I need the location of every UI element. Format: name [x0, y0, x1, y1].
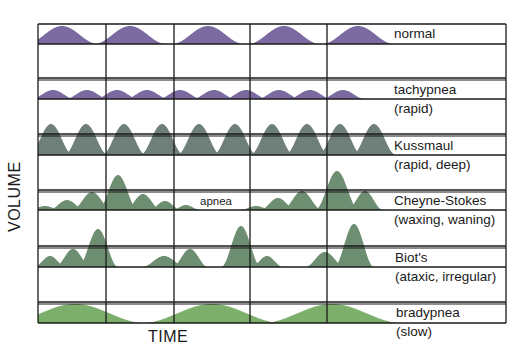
waveform-kussmaul [38, 124, 396, 155]
pattern-name: tachypnea [394, 82, 456, 98]
pattern-description: (slow) [396, 324, 460, 340]
pattern-name: Biot's [395, 250, 496, 266]
pattern-name: bradypnea [396, 305, 460, 321]
y-axis-label: VOLUME [6, 161, 24, 232]
pattern-description: (rapid) [394, 101, 456, 117]
pattern-name: Cheyne-Stokes [394, 193, 495, 209]
label-normal: normal [394, 26, 435, 42]
pattern-name: Kussmaul [394, 138, 471, 154]
label-tachypnea: tachypnea (rapid) [394, 82, 456, 117]
label-cheyne-stokes: Cheyne-Stokes (waxing, waning) [394, 193, 495, 228]
waveform-tachypnea [38, 90, 365, 99]
waveform-normal [38, 26, 394, 44]
pattern-name: normal [394, 26, 435, 41]
x-axis-label: TIME [148, 328, 188, 346]
label-bradypnea: bradypnea (slow) [396, 305, 460, 340]
pattern-description: (waxing, waning) [394, 212, 495, 228]
waveform-bradypnea [38, 304, 402, 323]
apnea-annotation: apnea [200, 195, 232, 207]
pattern-description: (ataxic, irregular) [395, 269, 496, 285]
label-biots: Biot's (ataxic, irregular) [395, 250, 496, 285]
breathing-patterns-diagram [0, 0, 525, 354]
label-kussmaul: Kussmaul (rapid, deep) [394, 138, 471, 173]
waveforms [38, 26, 402, 323]
pattern-description: (rapid, deep) [394, 157, 471, 173]
